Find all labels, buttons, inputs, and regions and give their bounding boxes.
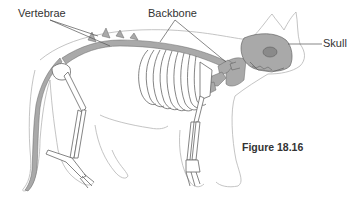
skeleton-illustration bbox=[0, 0, 362, 199]
vertebrae-leader-1 bbox=[50, 20, 110, 46]
ribcage bbox=[139, 50, 206, 111]
hind-leg bbox=[46, 64, 94, 189]
front-leg bbox=[186, 62, 212, 186]
figure-caption: Figure 18.16 bbox=[242, 141, 303, 153]
backbone-leader-1 bbox=[160, 20, 175, 42]
label-skull: Skull bbox=[323, 37, 347, 49]
label-backbone: Backbone bbox=[148, 7, 197, 19]
cat-skeleton-diagram: Vertebrae Backbone Skull Figure 18.16 bbox=[0, 0, 362, 199]
vertebrae-leader-2 bbox=[50, 20, 98, 36]
label-vertebrae: Vertebrae bbox=[18, 7, 66, 19]
